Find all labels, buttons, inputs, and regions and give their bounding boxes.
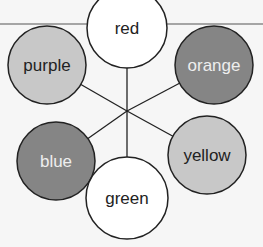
color-wheel-diagram: redpurpleorangeblueyellowgreen xyxy=(0,0,263,247)
node-label: purple xyxy=(23,56,70,75)
node-label: yellow xyxy=(183,146,231,165)
node-label: blue xyxy=(40,152,72,171)
node-label: orange xyxy=(188,56,241,75)
node-orange: orange xyxy=(175,26,253,104)
node-purple: purple xyxy=(8,26,86,104)
node-red: red xyxy=(87,0,167,68)
node-green: green xyxy=(86,157,168,239)
diagram-canvas: redpurpleorangeblueyellowgreen xyxy=(0,0,263,247)
node-blue: blue xyxy=(17,122,95,200)
node-yellow: yellow xyxy=(168,116,246,194)
node-label: red xyxy=(115,19,140,38)
node-label: green xyxy=(105,189,148,208)
